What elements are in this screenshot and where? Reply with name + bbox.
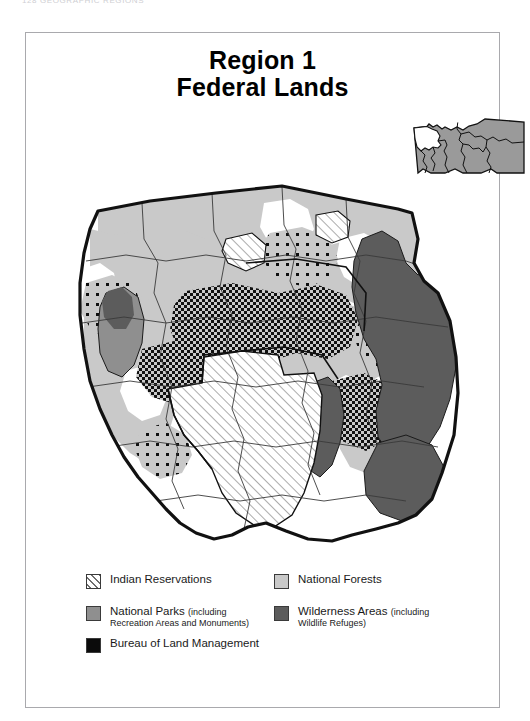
map-legend: Indian Reservations National Parks (incl…	[86, 573, 486, 663]
map-title: Region 1 Federal Lands	[26, 47, 499, 101]
running-header: 128 GEOGRAPHIC REGIONS	[22, 0, 352, 5]
legend-item-bureau-of-land-management[interactable]: Bureau of Land Management	[86, 637, 286, 661]
national-parks-swatch-icon	[86, 606, 101, 621]
main-map	[46, 143, 480, 543]
wilderness-southeast-block	[364, 435, 444, 521]
legend-label-indian-reservations: Indian Reservations	[110, 573, 286, 586]
map-title-line-2: Federal Lands	[26, 74, 499, 101]
legend-item-wilderness-areas[interactable]: Wilderness Areas (including Wildlife Ref…	[274, 605, 484, 629]
bureau-of-land-management-swatch-icon	[86, 638, 101, 653]
page-frame: Region 1 Federal Lands	[25, 32, 500, 708]
legend-item-national-parks[interactable]: National Parks (including Recreation Are…	[86, 605, 286, 629]
legend-item-indian-reservations[interactable]: Indian Reservations	[86, 573, 286, 597]
legend-sub-national-parks: Recreation Areas and Monuments)	[110, 618, 286, 629]
map-region-group	[46, 143, 480, 543]
page-root: 128 GEOGRAPHIC REGIONS Region 1 Federal …	[0, 0, 530, 721]
main-map-svg	[46, 143, 480, 543]
legend-column-right: National Forests Wilderness Areas (inclu…	[274, 573, 484, 637]
legend-sub-wilderness-areas: Wildlife Refuges)	[298, 618, 484, 629]
legend-label-wilderness-areas: Wilderness Areas	[298, 605, 387, 617]
legend-label-national-forests: National Forests	[298, 573, 484, 586]
legend-item-national-forests[interactable]: National Forests	[274, 573, 484, 597]
legend-label-wilderness-areas-wrap: Wilderness Areas (including	[298, 605, 484, 618]
legend-label-wilderness-areas-paren: (including	[391, 607, 430, 617]
national-forests-swatch-icon	[274, 574, 289, 589]
legend-label-bureau-of-land-management: Bureau of Land Management	[110, 637, 286, 650]
legend-label-national-parks-paren: (including	[188, 607, 227, 617]
legend-column-left: Indian Reservations National Parks (incl…	[86, 573, 286, 669]
indian-reservations-swatch-icon	[86, 574, 101, 589]
legend-label-national-parks-wrap: National Parks (including	[110, 605, 286, 618]
map-title-line-1: Region 1	[26, 47, 499, 74]
wilderness-areas-swatch-icon	[274, 606, 289, 621]
legend-label-national-parks: National Parks	[110, 605, 185, 617]
